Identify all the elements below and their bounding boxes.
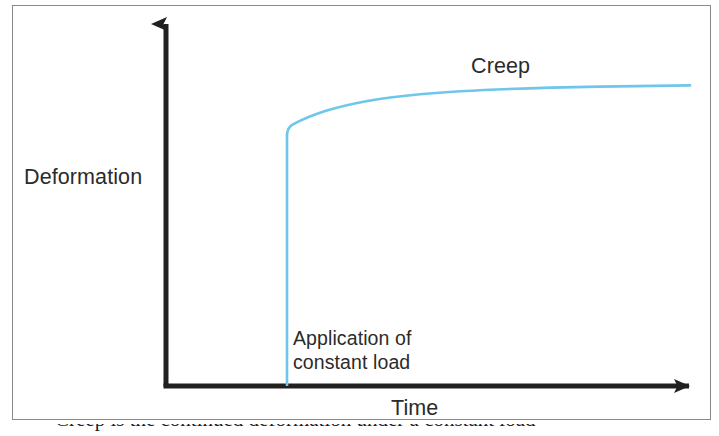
figure-canvas: Deformation Time Creep Application of co… bbox=[0, 0, 719, 436]
load-annotation-line-2: constant load bbox=[293, 350, 411, 374]
creep-series-label: Creep bbox=[471, 54, 530, 79]
caption-clip: Creep is the continued deformation under… bbox=[0, 424, 719, 436]
load-application-annotation: Application of constant load bbox=[293, 326, 411, 374]
x-axis-label: Time bbox=[391, 396, 438, 421]
creep-curve bbox=[287, 85, 690, 134]
figure-caption: Creep is the continued deformation under… bbox=[55, 424, 536, 432]
y-axis-label: Deformation bbox=[24, 165, 142, 190]
load-annotation-line-1: Application of bbox=[293, 326, 411, 350]
